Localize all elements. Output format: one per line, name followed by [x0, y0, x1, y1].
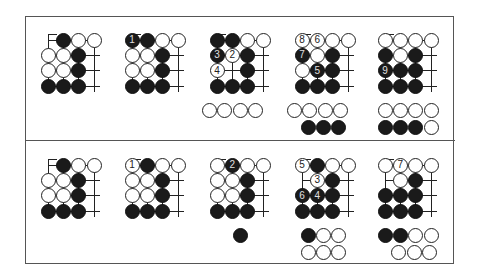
white-stone — [125, 188, 140, 203]
grid-line-v — [178, 40, 179, 92]
white-stone — [56, 48, 71, 63]
black-stone — [210, 79, 225, 94]
white-stone — [171, 33, 186, 48]
black-stone: 9 — [378, 63, 393, 78]
captured-white-stone — [301, 245, 316, 260]
white-stone: 8 — [295, 33, 310, 48]
white-stone — [256, 158, 271, 173]
black-stone: 2 — [225, 158, 240, 173]
black-stone — [225, 204, 240, 219]
white-stone — [393, 48, 408, 63]
black-stone — [225, 33, 240, 48]
white-stone — [424, 158, 439, 173]
black-stone — [378, 48, 393, 63]
grid-line-v — [348, 165, 349, 217]
white-stone — [341, 158, 356, 173]
captured-white-stone — [378, 103, 393, 118]
white-stone — [378, 33, 393, 48]
black-stone — [125, 204, 140, 219]
black-stone — [408, 79, 423, 94]
white-stone: 6 — [310, 33, 325, 48]
white-stone — [140, 173, 155, 188]
black-stone: 1 — [125, 33, 140, 48]
black-stone: 3 — [210, 48, 225, 63]
move-number: 5 — [299, 160, 305, 170]
white-stone: 1 — [125, 158, 140, 173]
black-stone — [140, 204, 155, 219]
captured-white-stone — [424, 103, 439, 118]
white-stone — [310, 48, 325, 63]
black-stone — [325, 79, 340, 94]
black-stone — [378, 79, 393, 94]
white-stone — [87, 158, 102, 173]
black-stone — [393, 204, 408, 219]
black-stone — [56, 204, 71, 219]
black-stone — [41, 79, 56, 94]
white-stone — [171, 158, 186, 173]
white-stone — [71, 158, 86, 173]
white-stone — [155, 33, 170, 48]
grid-line-v — [263, 165, 264, 217]
captured-black-stone — [378, 120, 393, 135]
black-stone — [378, 188, 393, 203]
move-number: 3 — [315, 175, 321, 185]
grid-line-v — [263, 40, 264, 92]
move-number: 7 — [299, 50, 305, 60]
white-stone — [210, 173, 225, 188]
captured-white-stone — [318, 103, 333, 118]
white-stone — [210, 188, 225, 203]
white-stone — [393, 33, 408, 48]
black-stone — [140, 79, 155, 94]
black-stone — [295, 79, 310, 94]
black-stone — [71, 204, 86, 219]
white-stone — [140, 48, 155, 63]
move-number: 4 — [214, 66, 220, 76]
move-number: 2 — [230, 50, 236, 60]
black-stone — [310, 158, 325, 173]
black-stone — [240, 79, 255, 94]
black-stone — [140, 33, 155, 48]
white-stone — [225, 173, 240, 188]
captured-white-stone — [407, 245, 422, 260]
black-stone — [41, 204, 56, 219]
white-stone — [325, 158, 340, 173]
black-stone — [325, 204, 340, 219]
white-stone — [341, 33, 356, 48]
move-number: 1 — [129, 35, 135, 45]
move-number: 6 — [315, 35, 321, 45]
black-stone — [140, 158, 155, 173]
grid-line-v — [348, 40, 349, 92]
white-stone: 5 — [295, 158, 310, 173]
move-number: 6 — [299, 191, 305, 201]
move-number: 5 — [315, 66, 321, 76]
grid-line-h — [48, 34, 57, 35]
captured-black-stone — [301, 120, 316, 135]
black-stone — [56, 158, 71, 173]
white-stone — [125, 63, 140, 78]
white-stone — [240, 33, 255, 48]
white-stone — [210, 158, 225, 173]
white-stone — [41, 48, 56, 63]
black-stone — [393, 79, 408, 94]
white-stone: 2 — [225, 48, 240, 63]
captured-white-stone — [424, 120, 439, 135]
black-stone: 6 — [295, 188, 310, 203]
white-stone — [155, 158, 170, 173]
white-stone — [41, 173, 56, 188]
black-stone — [295, 204, 310, 219]
black-stone — [71, 79, 86, 94]
panel-divider — [25, 140, 455, 141]
white-stone — [56, 173, 71, 188]
move-number: 4 — [315, 191, 321, 201]
move-number: 9 — [382, 66, 388, 76]
white-stone — [256, 33, 271, 48]
move-number: 3 — [214, 50, 220, 60]
white-stone — [41, 188, 56, 203]
black-stone — [240, 204, 255, 219]
grid-line-h — [48, 159, 57, 160]
grid-line-v — [94, 40, 95, 92]
captured-white-stone — [233, 103, 248, 118]
white-stone: 7 — [393, 158, 408, 173]
white-stone — [378, 158, 393, 173]
white-stone: 3 — [310, 173, 325, 188]
